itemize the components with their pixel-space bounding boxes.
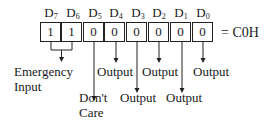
label-output-d2: Output xyxy=(142,65,178,79)
label-output-d4: Output xyxy=(97,65,133,79)
label-emergency: Emergency xyxy=(14,65,73,79)
label-output-d3: Output xyxy=(120,91,156,105)
label-output-d1: Output xyxy=(166,91,202,105)
label-output-d0: Output xyxy=(193,65,229,79)
label-input: Input xyxy=(14,80,41,94)
connector-arrows xyxy=(0,0,275,126)
label-dont: Don't xyxy=(79,91,107,105)
label-care: Care xyxy=(79,106,104,120)
